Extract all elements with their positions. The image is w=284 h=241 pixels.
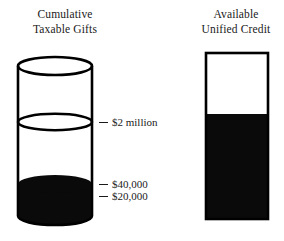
label-two-million-text: $2 million xyxy=(112,116,158,128)
cylinder-two-million-level-ring xyxy=(18,114,92,130)
label-two-million: $2 million xyxy=(99,116,158,128)
leader-dash-icon xyxy=(99,196,108,197)
cumulative-taxable-gifts-cylinder xyxy=(10,50,105,235)
right-chart-title: Available Unified Credit xyxy=(172,7,284,37)
right-chart-title-line1: Available xyxy=(172,7,284,22)
label-forty-thousand: $40,000 xyxy=(99,178,148,190)
left-chart-title-line2: Taxable Gifts xyxy=(0,22,130,37)
right-chart-title-line2: Unified Credit xyxy=(172,22,284,37)
left-chart-title: Cumulative Taxable Gifts xyxy=(0,7,130,37)
bar-filled-region xyxy=(206,114,268,220)
available-unified-credit-bar xyxy=(198,45,278,230)
label-twenty-thousand: $20,000 xyxy=(99,190,148,202)
leader-dash-icon xyxy=(99,122,108,123)
figure-canvas: Cumulative Taxable Gifts Available Unifi… xyxy=(0,0,284,241)
cylinder-top-rim xyxy=(18,57,92,75)
leader-dash-icon xyxy=(99,184,108,185)
cylinder-liquid-fill xyxy=(18,175,92,225)
label-twenty-thousand-text: $20,000 xyxy=(112,190,148,202)
bar-unfilled-region xyxy=(206,53,268,114)
left-chart-title-line1: Cumulative xyxy=(0,7,130,22)
label-forty-thousand-text: $40,000 xyxy=(112,178,148,190)
